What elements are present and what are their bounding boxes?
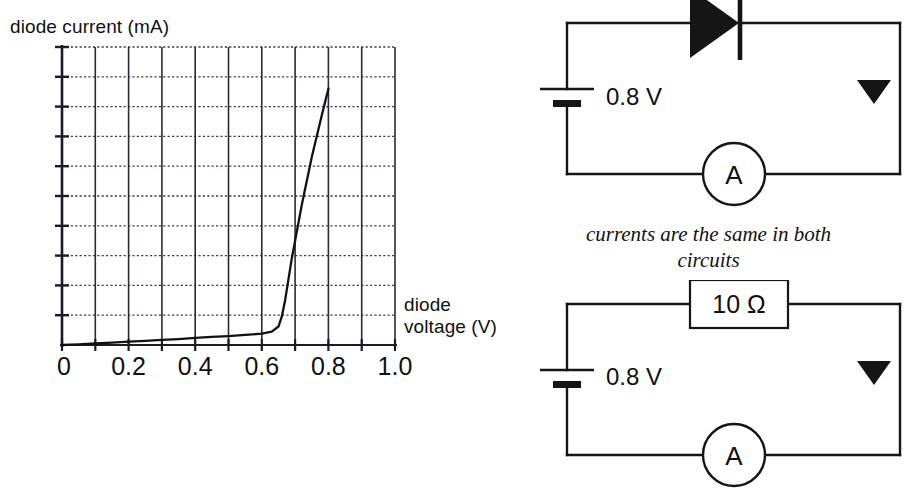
battery-voltage-label-top: 0.8 V — [606, 83, 662, 111]
x-tick-label-1: 0.2 — [111, 352, 146, 381]
resistor-value-label: 10 Ω — [712, 290, 765, 318]
x-tick-label-2: 0.4 — [178, 352, 213, 381]
ammeter-symbol-2: A — [703, 424, 765, 486]
circuit-resistor: 10 Ω A — [500, 280, 917, 496]
circuit-diode: A — [500, 0, 917, 215]
x-tick-label-3: 0.6 — [244, 352, 279, 381]
x-tick-label-5: 1.0 — [378, 352, 413, 381]
resistor-symbol: 10 Ω — [690, 280, 788, 328]
ammeter-label-2: A — [725, 441, 743, 471]
figure-caption: currents are the same in both circuits — [500, 222, 917, 273]
battery-symbol — [540, 89, 594, 107]
diode-symbol — [690, 0, 740, 60]
x-tick-label-4: 0.8 — [311, 352, 346, 381]
ammeter-label: A — [725, 160, 743, 190]
x-axis-title-line1: diode — [404, 294, 497, 316]
current-arrow-icon-2 — [857, 361, 891, 385]
x-axis-title: diode voltage (V) — [404, 294, 497, 338]
caption-line-2: circuits — [500, 248, 917, 274]
ammeter-symbol: A — [703, 143, 765, 205]
battery-symbol-2 — [540, 370, 594, 388]
caption-line-1: currents are the same in both — [500, 222, 917, 248]
graph-plot-area — [0, 0, 500, 400]
circuit-diagrams: A 0.8 V currents are the same in both ci… — [500, 0, 917, 496]
diode-iv-graph: diode current (mA) — [0, 0, 500, 496]
battery-voltage-label-bottom: 0.8 V — [606, 363, 662, 391]
x-axis-title-line2: voltage (V) — [404, 316, 497, 338]
current-arrow-icon — [857, 80, 891, 104]
diode-iv-and-circuits-figure: diode current (mA) — [0, 0, 917, 496]
x-tick-label-0: 0 — [57, 352, 71, 381]
